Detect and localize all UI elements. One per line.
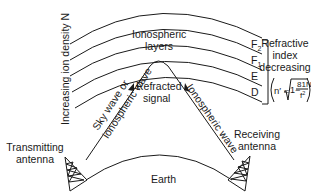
ionospheric-layers-label-1: Ionospheric — [132, 28, 186, 40]
formula-lhs: n′ = — [274, 85, 290, 96]
formula-numerator: 81N — [297, 80, 311, 89]
transmitter-label-1: Transmitting — [6, 141, 64, 153]
refractive-label-1: Refractive — [261, 37, 308, 49]
receiver-label-1: Receiving — [234, 128, 280, 140]
refractive-label-2: index — [272, 49, 298, 61]
receiving-antenna-icon — [228, 156, 250, 191]
transmitter-label-2: antenna — [16, 153, 54, 165]
ionospheric-wave-label: Ionospheric wave — [184, 81, 241, 155]
layer-label-d: D — [251, 86, 259, 98]
ion-density-axis-label: Increasing ion density N — [59, 13, 71, 125]
layer-label-f2: F2 — [251, 38, 261, 52]
refracted-label-1: Refracted — [136, 80, 182, 92]
refractive-index-formula: n′ = 1− 81N f2 — [271, 78, 311, 102]
layer-label-e: E — [251, 70, 258, 82]
refracted-label-2: signal — [143, 92, 170, 104]
refractive-label-3: decreasing — [259, 61, 311, 73]
propagation-diagram: F2 F1 E D Ionospheric layers Increasing … — [0, 0, 311, 196]
earth-label: Earth — [151, 173, 176, 185]
formula-denominator: f2 — [300, 90, 305, 100]
ionospheric-layers-label-2: layers — [145, 40, 173, 52]
transmitting-antenna-icon — [65, 157, 87, 191]
receiver-label-2: antenna — [238, 140, 276, 152]
